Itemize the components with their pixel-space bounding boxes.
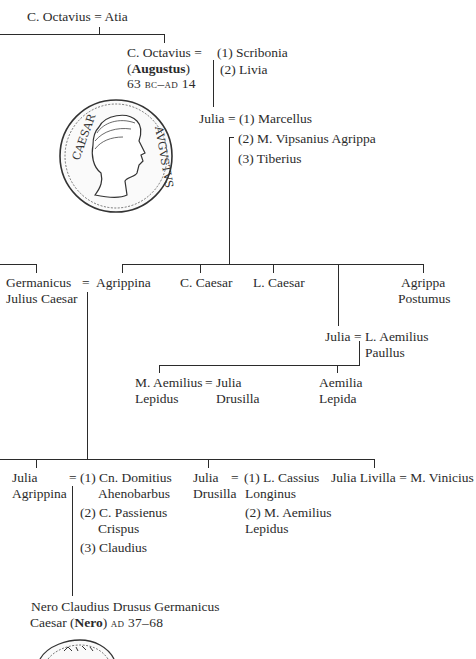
line-to-nero — [72, 486, 73, 596]
husband-m-vinicius: M. Vinicius — [410, 470, 473, 485]
person-julia-livilla: Julia Livilla — [331, 470, 396, 485]
person-julia-drusilla: Julia Drusilla — [193, 470, 237, 502]
husband-cn-domitius: (1) Cn. Domitius — [80, 470, 172, 486]
person-l-caesar: L. Caesar — [253, 275, 305, 291]
aemilia-line1: Aemilia — [319, 375, 363, 391]
paren-close: ) — [186, 61, 191, 76]
person-aemilia-lepida: Aemilia Lepida — [319, 375, 363, 407]
julia-elder-couple: Julia = (1) Marcellus — [199, 111, 312, 127]
person-julia-elder: Julia — [199, 111, 225, 126]
marriage-sign-germanicus: = — [82, 275, 90, 291]
agrippa-postumus-line2: Postumus — [398, 291, 451, 307]
person-nero-line1: Nero Claudius Drusus Germanicus — [31, 599, 220, 615]
line-to-julia-minor — [338, 264, 339, 326]
line-to-germanicus — [36, 264, 37, 273]
augustus-coin-image: CAESAR AVGVSTVS — [57, 97, 175, 215]
husband-claudius: (3) Claudius — [80, 540, 147, 556]
line-gen1-children — [0, 34, 165, 35]
person-augustus-name: C. Octavius = — [127, 45, 202, 61]
person-julia-minor: Julia — [325, 329, 351, 344]
line-to-livilla — [374, 459, 375, 468]
agrippa-postumus-line1: Agrippa — [398, 275, 451, 291]
line-to-agrippa-postumus — [423, 264, 424, 273]
lepidus-line1: M. Aemilius — [135, 375, 203, 391]
person-nero-line2: Caesar (Nero) ad 37–68 — [30, 615, 163, 631]
wife-livia: (2) Livia — [220, 62, 268, 78]
augustus-name-text: C. Octavius — [127, 45, 191, 60]
husband-marcellus: (1) Marcellus — [239, 111, 312, 126]
husband-agrippa: (2) M. Vipsanius Agrippa — [238, 131, 376, 147]
marriage-sign: = — [194, 45, 202, 60]
paren-close: ) — [103, 615, 108, 630]
nero-caesar: Caesar ( — [30, 615, 75, 630]
line-to-lepidus — [159, 365, 160, 373]
person-agrippa-postumus: Agrippa Postumus — [398, 275, 451, 307]
line-gen4b-children — [159, 365, 360, 366]
marriage-sign: = — [94, 9, 102, 24]
line-to-drusilla — [208, 459, 209, 468]
person-m-aemilius-lepidus: M. Aemilius Lepidus — [135, 375, 203, 407]
nero-dates: ad 37–68 — [111, 615, 164, 630]
marriage-sign: = — [228, 111, 236, 126]
husband-tiberius: (3) Tiberius — [238, 151, 301, 167]
germanicus-line2: Julius Caesar — [6, 291, 78, 307]
line-to-augustus — [164, 34, 165, 43]
husband-c-passienus: (2) C. Passienus — [80, 505, 167, 521]
husband-paullus: Paullus — [365, 345, 405, 361]
aemilia-line2: Lepida — [319, 391, 363, 407]
germanicus-line1: Germanicus — [6, 275, 78, 291]
wife-scribonia: (1) Scribonia — [217, 45, 288, 61]
person-agrippina-elder: Agrippina — [96, 275, 151, 291]
line-julia-minor-children — [359, 341, 360, 366]
person-julia-drusilla-b: Julia Drusilla — [216, 375, 260, 407]
person-c-octavius-father: C. Octavius — [27, 9, 91, 24]
husband-lepidus: Lepidus — [245, 521, 289, 537]
person-atia: Atia — [104, 9, 127, 24]
line-augustus-to-julia — [213, 60, 214, 107]
drusilla-line2: Drusilla — [193, 486, 237, 502]
line-germanicus-branch — [0, 264, 37, 265]
marriage-sign-agrippina: = — [69, 470, 77, 486]
drusilla-b-line1: Julia — [216, 375, 260, 391]
line-to-aemilia — [337, 365, 338, 373]
marriage-sign-drusilla: = — [231, 470, 239, 486]
line-to-agrippina — [122, 264, 123, 273]
augustus-title: (Augustus) — [127, 61, 190, 77]
agrippina-minor-line1: Julia — [12, 470, 67, 486]
lepidus-line2: Lepidus — [135, 391, 203, 407]
line-to-agrippina-minor — [36, 459, 37, 468]
husband-ahenobarbus: Ahenobarbus — [98, 486, 170, 502]
line-to-c-caesar — [200, 264, 201, 273]
marriage-sign-lepidus: = — [205, 375, 213, 391]
husband-crispus: Crispus — [98, 521, 139, 537]
line-gen4-drop — [87, 440, 88, 460]
person-julia-agrippina: Julia Agrippina — [12, 470, 67, 502]
nero-coin-image — [38, 639, 118, 659]
julia-minor-couple: Julia = L. Aemilius — [325, 329, 429, 345]
drusilla-line1: Julia — [193, 470, 237, 486]
person-c-caesar: C. Caesar — [180, 275, 232, 291]
title-nero: Nero — [75, 615, 103, 630]
agrippina-minor-line2: Agrippina — [12, 486, 67, 502]
person-germanicus: Germanicus Julius Caesar — [6, 275, 78, 307]
line-germanicus-children — [87, 292, 88, 441]
line-agrippa-children — [229, 137, 230, 265]
husband-l-aemilius: L. Aemilius — [365, 329, 429, 344]
husband-m-aemilius: (2) M. Aemilius — [245, 505, 332, 521]
livilla-couple: Julia Livilla = M. Vinicius — [331, 470, 474, 486]
husband-longinus: Longinus — [245, 486, 296, 502]
octavius-atia-couple: C. Octavius = Atia — [27, 9, 128, 25]
line-to-l-caesar — [273, 264, 274, 273]
husband-l-cassius: (1) L. Cassius — [244, 470, 319, 486]
marriage-sign: = — [399, 470, 407, 485]
drusilla-b-line2: Drusilla — [216, 391, 260, 407]
title-augustus: Augustus — [132, 61, 186, 76]
line-gen4-children — [0, 459, 375, 460]
augustus-dates: 63 bc–ad 14 — [127, 76, 196, 92]
